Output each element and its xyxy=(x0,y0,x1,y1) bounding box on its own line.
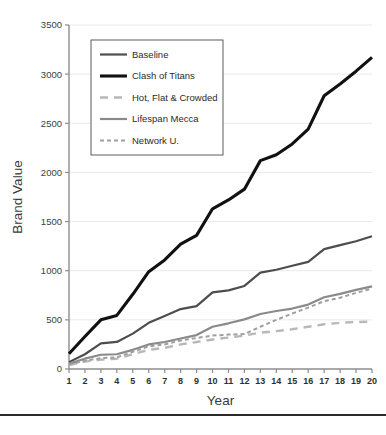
x-axis-title: Year xyxy=(207,393,235,408)
series-line-3 xyxy=(69,286,372,363)
x-tick-label: 2 xyxy=(82,376,87,386)
y-tick-label: 3000 xyxy=(41,69,62,80)
y-tick-label: 1500 xyxy=(41,216,62,227)
legend-label-3: Lifespan Mecca xyxy=(132,113,199,124)
x-tick-label: 8 xyxy=(178,376,183,386)
x-tick-label: 16 xyxy=(303,376,313,386)
legend-label-2: Hot, Flat & Crowded xyxy=(132,92,218,103)
chart-screenshot: 0500100015002000250030003500123456789101… xyxy=(0,0,386,435)
x-tick-label: 15 xyxy=(287,376,297,386)
x-tick-label: 9 xyxy=(194,376,199,386)
chart-canvas: 0500100015002000250030003500123456789101… xyxy=(0,0,386,408)
y-tick-label: 2500 xyxy=(41,118,62,129)
y-axis-title: Brand Value xyxy=(10,160,25,233)
x-tick-label: 4 xyxy=(114,376,119,386)
x-tick-label: 14 xyxy=(271,376,281,386)
y-tick-label: 3500 xyxy=(41,19,62,30)
x-tick-label: 17 xyxy=(319,376,329,386)
line-chart-figure: 0500100015002000250030003500123456789101… xyxy=(0,0,386,408)
y-tick-label: 2000 xyxy=(41,167,62,178)
legend-label-1: Clash of Titans xyxy=(132,70,195,81)
footer-divider-rule xyxy=(0,414,386,416)
legend-label-0: Baseline xyxy=(132,49,168,60)
x-tick-label: 6 xyxy=(146,376,151,386)
x-tick-label: 20 xyxy=(367,376,377,386)
x-tick-label: 10 xyxy=(208,376,218,386)
x-tick-label: 3 xyxy=(98,376,103,386)
x-tick-label: 13 xyxy=(255,376,265,386)
footer-clipped-text xyxy=(6,424,306,435)
x-tick-label: 11 xyxy=(224,376,234,386)
legend-label-4: Network U. xyxy=(132,135,179,146)
x-tick-label: 19 xyxy=(351,376,361,386)
x-tick-label: 5 xyxy=(130,376,135,386)
y-tick-label: 500 xyxy=(46,314,62,325)
x-tick-label: 7 xyxy=(162,376,167,386)
series-line-4 xyxy=(69,289,372,365)
y-tick-label: 1000 xyxy=(41,265,62,276)
series-line-2 xyxy=(69,322,372,365)
x-tick-label: 1 xyxy=(66,376,71,386)
x-tick-label: 18 xyxy=(335,376,345,386)
series-line-0 xyxy=(69,236,372,362)
y-tick-label: 0 xyxy=(57,363,62,374)
x-tick-label: 12 xyxy=(239,376,249,386)
